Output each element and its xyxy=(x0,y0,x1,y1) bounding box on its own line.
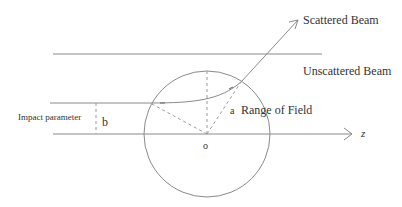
range-of-field-label: Range of Field xyxy=(241,103,312,117)
scattered-beam-label: Scattered Beam xyxy=(303,13,379,27)
scattering-diagram: Scattered Beam Unscattered Beam Impact p… xyxy=(0,0,402,207)
unscattered-beam-label: Unscattered Beam xyxy=(303,64,392,78)
scattered-beam-path xyxy=(50,20,298,103)
origin-label: o xyxy=(203,140,208,151)
impact-parameter-label: Impact parameter xyxy=(18,112,81,122)
dashed-exit-radius-a xyxy=(207,82,241,134)
dashed-entry-radius xyxy=(152,104,207,134)
a-label: a xyxy=(230,105,235,116)
z-axis-label: z xyxy=(360,127,366,139)
b-label: b xyxy=(102,115,108,129)
